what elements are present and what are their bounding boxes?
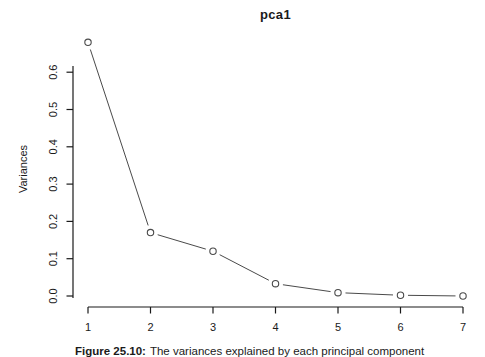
series-line-segment: [90, 49, 148, 225]
y-tick-label: 0.0: [47, 288, 59, 303]
y-tick-label: 0.2: [47, 214, 59, 229]
y-tick-label: 0.5: [47, 102, 59, 117]
x-tick-label: 4: [272, 321, 278, 333]
data-point-marker: [272, 280, 278, 286]
x-tick-label: 3: [210, 321, 216, 333]
figure-caption-label: Figure 25.10:: [75, 345, 146, 357]
x-tick-label: 7: [460, 321, 466, 333]
figure-caption-text: The variances explained by each principa…: [150, 345, 424, 357]
y-tick-label: 0.6: [47, 65, 59, 80]
x-tick-label: 1: [85, 321, 91, 333]
series-line-segment: [345, 293, 393, 295]
series-line-segment: [283, 285, 331, 292]
x-tick-label: 6: [397, 321, 403, 333]
data-point-marker: [460, 293, 466, 299]
data-point-marker: [397, 292, 403, 298]
data-point-marker: [147, 229, 153, 235]
y-tick-label: 0.4: [47, 139, 59, 154]
series-line-segment: [408, 295, 456, 296]
series-line-segment: [158, 235, 206, 249]
x-tick-label: 2: [147, 321, 153, 333]
data-point-marker: [335, 289, 341, 295]
data-point-marker: [210, 248, 216, 254]
y-tick-label: 0.1: [47, 251, 59, 266]
series-line-segment: [220, 255, 269, 281]
x-tick-label: 5: [335, 321, 341, 333]
y-tick-label: 0.3: [47, 176, 59, 191]
figure-caption: Figure 25.10:The variances explained by …: [75, 345, 424, 357]
data-point-marker: [85, 39, 91, 45]
